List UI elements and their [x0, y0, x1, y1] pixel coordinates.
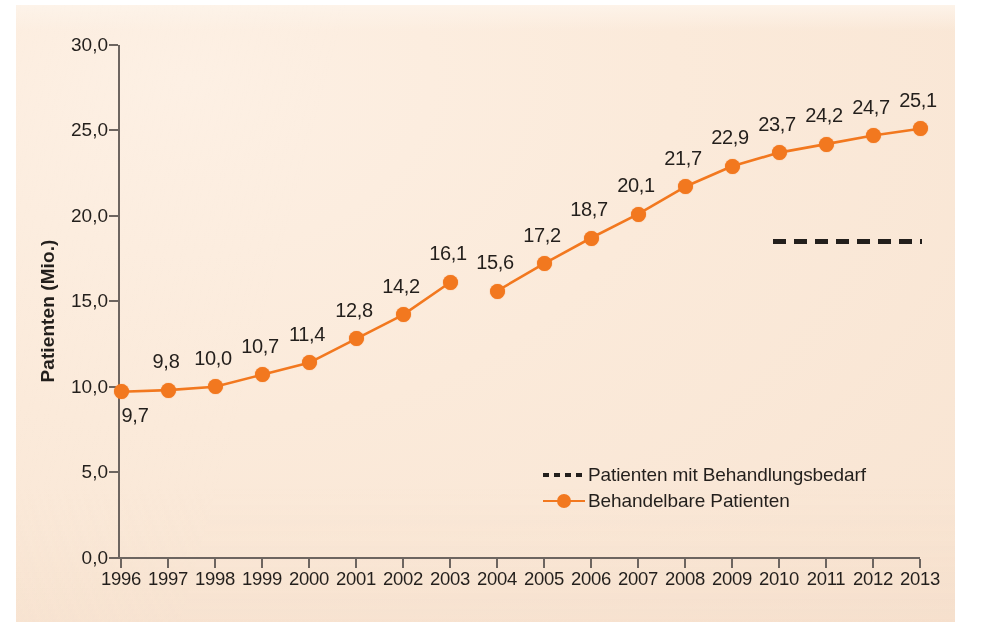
chart-legend: Patienten mit Behandlungsbedarf Behandel…: [540, 462, 900, 514]
data-point-label: 11,4: [272, 323, 342, 346]
data-point: [772, 145, 787, 160]
data-point: [490, 284, 505, 299]
data-point-label: 9,7: [100, 404, 170, 427]
data-point: [725, 159, 740, 174]
data-point: [208, 379, 223, 394]
reference-dashed-segment: [773, 239, 922, 244]
data-point-label: 20,1: [601, 174, 671, 197]
data-point-label: 18,7: [554, 198, 624, 221]
data-point: [584, 231, 599, 246]
data-point-label: 17,2: [507, 224, 577, 247]
chart-figure: Patienten (Mio.) 0,05,010,015,020,025,03…: [0, 0, 987, 640]
data-point: [819, 137, 834, 152]
legend-label: Patienten mit Behandlungsbedarf: [588, 462, 866, 488]
data-point: [678, 179, 693, 194]
data-point: [443, 275, 458, 290]
data-point-label: 15,6: [460, 251, 530, 274]
data-point: [631, 207, 646, 222]
data-point: [255, 367, 270, 382]
legend-label: Behandelbare Patienten: [588, 488, 790, 514]
data-point: [161, 383, 176, 398]
data-point-label: 12,8: [319, 299, 389, 322]
data-point: [302, 355, 317, 370]
data-point: [866, 128, 881, 143]
data-point-label: 14,2: [366, 275, 436, 298]
plot-area: Patienten (Mio.) 0,05,010,015,020,025,03…: [0, 0, 987, 640]
data-point: [114, 384, 129, 399]
data-point-label: 25,1: [883, 89, 953, 112]
data-point-label: 21,7: [648, 147, 718, 170]
dashed-line-icon: [543, 473, 583, 477]
legend-item-behandelbare-patienten: Behandelbare Patienten: [540, 488, 900, 514]
data-point: [349, 331, 364, 346]
data-point: [913, 121, 928, 136]
data-point: [537, 256, 552, 271]
legend-item-patienten-mit-behandlungsbedarf: Patienten mit Behandlungsbedarf: [540, 462, 900, 488]
circle-marker-icon: [557, 494, 571, 508]
data-point: [396, 307, 411, 322]
